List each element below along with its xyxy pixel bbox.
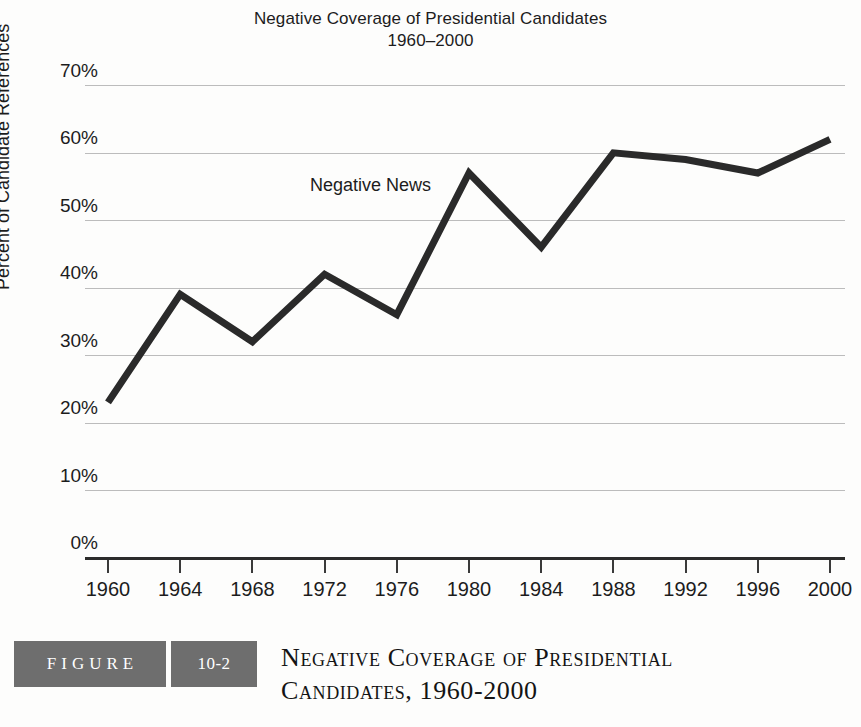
y-tick-label-40: 40%: [28, 262, 98, 284]
x-tick-label-2000: 2000: [790, 578, 861, 601]
gridline-40: [85, 288, 845, 289]
gridline-20: [85, 423, 845, 424]
gridline-70: [85, 85, 845, 86]
x-tick-1968: [251, 560, 253, 573]
y-tick-label-70: 70%: [28, 60, 98, 82]
x-tick-label-1984: 1984: [501, 578, 581, 601]
plot-area: [108, 85, 845, 557]
caption-title-line2: Candidates, 1960-2000: [281, 676, 538, 705]
gridline-30: [85, 355, 845, 356]
x-tick-label-1972: 1972: [285, 578, 365, 601]
x-tick-1984: [540, 560, 542, 573]
gridline-60: [85, 153, 845, 154]
x-tick-1960: [107, 560, 109, 573]
y-tick-label-60: 60%: [28, 127, 98, 149]
x-tick-1996: [757, 560, 759, 573]
x-tick-label-1976: 1976: [357, 578, 437, 601]
gridline-10: [85, 490, 845, 491]
chart-title: Negative Coverage of Presidential Candid…: [0, 8, 861, 52]
y-tick-label-10: 10%: [28, 465, 98, 487]
x-tick-2000: [829, 560, 831, 573]
series-annotation-negative-news: Negative News: [310, 175, 431, 196]
x-tick-label-1960: 1960: [68, 578, 148, 601]
y-axis-labels: 70% 60% 50% 40% 30% 20% 10% 0%: [10, 0, 98, 727]
x-tick-label-1988: 1988: [573, 578, 653, 601]
figure-caption: FIGURE 10-2 Negative Coverage of Preside…: [14, 641, 801, 707]
gridline-50: [85, 220, 845, 221]
y-tick-label-20: 20%: [28, 397, 98, 419]
x-tick-1972: [324, 560, 326, 573]
caption-figure-badge: FIGURE: [14, 641, 166, 687]
x-tick-1980: [468, 560, 470, 573]
y-tick-label-50: 50%: [28, 195, 98, 217]
x-tick-1964: [179, 560, 181, 573]
caption-title-line1: Negative Coverage of Presidential: [281, 643, 673, 672]
caption-title: Negative Coverage of Presidential Candid…: [281, 641, 801, 707]
caption-number-badge: 10-2: [171, 641, 257, 687]
x-tick-label-1992: 1992: [646, 578, 726, 601]
x-tick-label-1968: 1968: [212, 578, 292, 601]
y-tick-label-30: 30%: [28, 330, 98, 352]
figure-root: Negative Coverage of Presidential Candid…: [0, 0, 861, 727]
chart-title-line2: 1960–2000: [0, 30, 861, 52]
x-tick-label-1964: 1964: [140, 578, 220, 601]
x-axis-line: [85, 557, 845, 560]
x-tick-label-1996: 1996: [718, 578, 798, 601]
x-tick-1976: [396, 560, 398, 573]
chart-title-line1: Negative Coverage of Presidential Candid…: [254, 9, 607, 28]
x-tick-1988: [612, 560, 614, 573]
x-tick-1992: [685, 560, 687, 573]
y-tick-label-0: 0%: [28, 532, 98, 554]
x-tick-label-1980: 1980: [429, 578, 509, 601]
